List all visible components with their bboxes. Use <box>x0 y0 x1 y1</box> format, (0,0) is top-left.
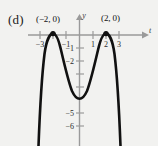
x-tick-label-neg3: −3 <box>36 40 45 49</box>
x-tick-label-3: 3 <box>117 40 121 49</box>
figure-panel: (d) (−2, 0) (2, 0) <box>0 0 158 146</box>
x-axis-name: t <box>149 26 152 35</box>
y-tick-label-neg2: −2 <box>65 57 74 66</box>
x-axis <box>28 32 149 39</box>
y-tick-label-neg1: −1 <box>65 44 74 53</box>
y-tick-label-neg6: −6 <box>65 122 74 131</box>
y-axis-name: y <box>81 11 86 20</box>
y-tick-label-neg5: −5 <box>65 109 74 118</box>
marked-point-left <box>50 31 55 36</box>
marked-point-right <box>103 31 108 36</box>
x-tick-label-2: 2 <box>104 40 108 49</box>
graph-svg: −3 −1 1 2 3 −1 −2 −5 −6 t y <box>0 0 158 146</box>
x-tick-label-1: 1 <box>91 40 95 49</box>
